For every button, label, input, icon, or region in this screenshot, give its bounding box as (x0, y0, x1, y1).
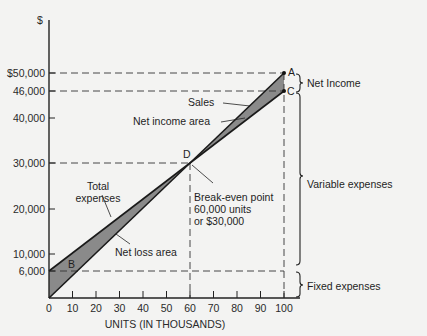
point-c-marker (282, 89, 286, 93)
point-c-label: C (287, 85, 295, 97)
x-ticks (73, 291, 285, 298)
net-income-bracket-label: Net Income (307, 77, 361, 89)
x-axis-label: UNITS (IN THOUSANDS) (105, 318, 226, 330)
y-axis-label: $ (37, 14, 43, 26)
svg-text:0: 0 (46, 302, 52, 314)
break-even-annotation-3: or $30,000 (194, 215, 244, 227)
y-tick-label: 46,000 (13, 85, 45, 97)
y-tick-label: $50,000 (7, 67, 45, 79)
y-tick-label: 20,000 (13, 203, 45, 215)
point-d-label: D (183, 148, 191, 160)
y-tick-label: 40,000 (13, 112, 45, 124)
total-expenses-annotation-2: expenses (76, 192, 121, 204)
total-expenses-annotation: Total (87, 180, 109, 192)
net-income-area-annotation: Net income area (133, 115, 210, 127)
svg-text:90: 90 (255, 302, 267, 314)
y-tick-label: 30,000 (13, 157, 45, 169)
svg-text:100: 100 (275, 302, 293, 314)
break-even-annotation-1: Break-even point (194, 191, 273, 203)
sales-annotation: Sales (188, 96, 214, 108)
net-loss-area-annotation: Net loss area (115, 246, 177, 258)
braces (296, 74, 303, 297)
point-b-label: B (68, 258, 75, 270)
y-tick-label: 10,000 (13, 248, 45, 260)
break-even-annotation-2: 60,000 units (194, 203, 251, 215)
point-a-marker (282, 71, 286, 75)
svg-text:70: 70 (208, 302, 220, 314)
svg-text:20: 20 (90, 302, 102, 314)
x-tick-labels: 0 10 20 30 40 50 60 70 80 90 100 (46, 302, 293, 314)
svg-text:50: 50 (161, 302, 173, 314)
svg-text:80: 80 (231, 302, 243, 314)
variable-expenses-bracket-label: Variable expenses (307, 178, 393, 190)
y-tick-label: 6,000 (19, 265, 45, 277)
svg-text:40: 40 (137, 302, 149, 314)
svg-text:30: 30 (114, 302, 126, 314)
svg-text:60: 60 (184, 302, 196, 314)
y-ticks (49, 73, 55, 271)
sales-line (49, 73, 284, 298)
fixed-expenses-bracket-label: Fixed expenses (307, 280, 381, 292)
point-a-label: A (288, 66, 295, 78)
break-even-chart: $ $50,000 46,000 40,000 30,000 20,000 10… (0, 0, 427, 336)
svg-text:10: 10 (67, 302, 79, 314)
